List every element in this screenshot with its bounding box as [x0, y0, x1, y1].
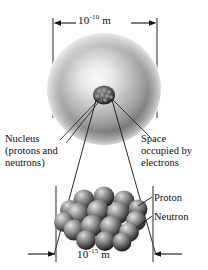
- nucleus-dimension-label: 10-15 m: [77, 247, 110, 260]
- callout-space-line1: Space: [141, 133, 192, 145]
- atom-dimension-label: 10-10 m: [78, 13, 111, 26]
- callout-nucleus-line2: (protons and: [5, 145, 58, 157]
- callout-nucleus-line1: Nucleus: [5, 133, 58, 145]
- arrow-right-icon: [149, 20, 157, 26]
- callout-electron-space: Space occupied by electrons: [141, 133, 192, 170]
- callout-space-line2: occupied by: [141, 145, 192, 157]
- callout-neutron: Neutron: [154, 211, 188, 223]
- callout-proton: Proton: [154, 192, 182, 204]
- nucleon: [113, 233, 132, 252]
- callout-nucleus-line3: neutrons): [5, 157, 58, 169]
- callout-space-line3: electrons: [141, 157, 192, 169]
- arrow-left-icon: [54, 20, 62, 26]
- callout-nucleus: Nucleus (protons and neutrons): [5, 133, 58, 170]
- arrow-left-inward-icon: [154, 251, 162, 257]
- nucleon-cluster: [54, 187, 148, 252]
